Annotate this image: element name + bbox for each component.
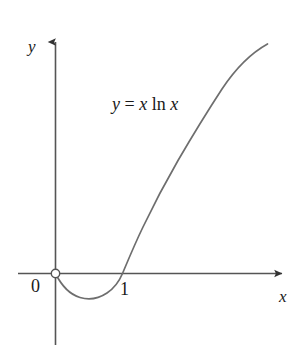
equation-x-right: x	[170, 94, 178, 114]
x-axis-label: x	[279, 288, 287, 305]
x-tick-label-0: 0	[31, 277, 40, 295]
y-axis-label: y	[28, 38, 36, 55]
plot-area	[0, 0, 302, 354]
curve-equation-label: y = x ln x	[112, 95, 178, 113]
open-circle-icon	[51, 269, 59, 277]
equation-equals: =	[120, 94, 139, 114]
curve-y-equals-x-ln-x	[56, 44, 268, 299]
equation-ln: ln	[147, 94, 170, 114]
x-tick-label-1: 1	[120, 280, 129, 298]
chart-figure: y x 0 1 y = x ln x	[0, 0, 302, 354]
equation-y: y	[112, 94, 120, 114]
equation-x-left: x	[139, 94, 147, 114]
